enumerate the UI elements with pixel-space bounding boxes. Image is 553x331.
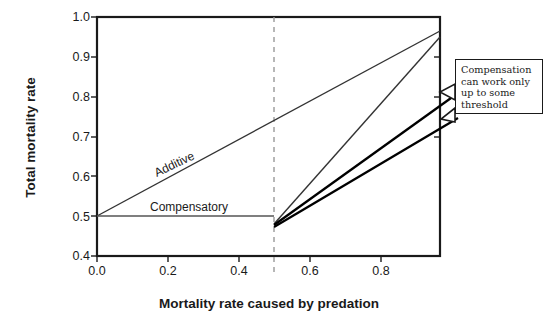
annotation-line: Compensation (461, 64, 538, 76)
chart-figure: Total mortality rate 1.0 0.9 0.8 0.7 0.6… (0, 0, 553, 331)
partial-compensation-line (274, 37, 440, 224)
plot-area (0, 0, 553, 331)
compensatory-curve-label: Compensatory (150, 200, 228, 214)
annotation-line: up to some (461, 87, 538, 99)
threshold-compensation-upper-line (274, 93, 458, 225)
threshold-compensation-lower-line (274, 118, 458, 227)
annotation-line: threshold (461, 99, 538, 111)
plot-frame (97, 17, 440, 256)
callout-pointer-upper (440, 84, 455, 100)
annotation-callout-box: Compensation can work only up to some th… (455, 59, 543, 114)
callout-pointer-lower (441, 108, 455, 122)
annotation-line: can work only (461, 76, 538, 88)
additive-line (97, 31, 440, 216)
